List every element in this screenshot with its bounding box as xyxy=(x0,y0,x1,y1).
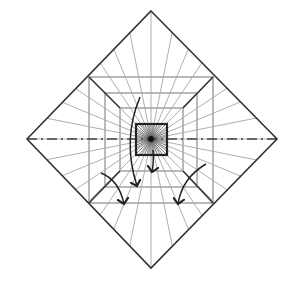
center-point xyxy=(148,136,154,142)
crease-pattern-diagram xyxy=(0,0,292,291)
diagram-canvas xyxy=(0,0,292,291)
arrow-short-center xyxy=(152,150,153,172)
